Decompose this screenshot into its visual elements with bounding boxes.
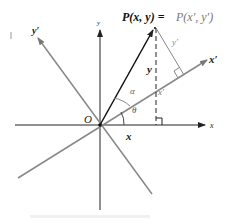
alpha-arc — [114, 98, 130, 106]
y-segment-label: y — [145, 63, 152, 75]
right-angle-x-prime — [174, 67, 180, 78]
rotation-of-axes-diagram: P(x, y) = P(x′, y′) y x x′ y′ O x y x′ y… — [0, 0, 229, 221]
point-label-rhs: P(x′, y′) — [175, 10, 213, 24]
origin-point — [98, 123, 102, 127]
faint-caption — [30, 215, 150, 218]
x-prime-segment-label: x′ — [157, 87, 165, 97]
theta-label: θ — [132, 105, 137, 115]
x-segment-label: x — [125, 130, 132, 142]
y-prime-axis-label: y′ — [31, 25, 39, 36]
y-prime-projection — [156, 28, 184, 75]
point-label-lhs: P(x, y) = — [122, 10, 165, 24]
theta-arc — [121, 112, 124, 125]
x-prime-axis — [18, 60, 207, 178]
y-prime-segment-label: y′ — [171, 37, 179, 47]
point-p — [154, 27, 156, 29]
origin-label: O — [84, 113, 92, 125]
right-angle-x — [156, 118, 162, 125]
alpha-label: α — [130, 86, 135, 96]
y-axis-label: y — [96, 19, 101, 27]
x-axis-label: x — [209, 121, 214, 130]
x-prime-axis-label: x′ — [208, 53, 218, 65]
